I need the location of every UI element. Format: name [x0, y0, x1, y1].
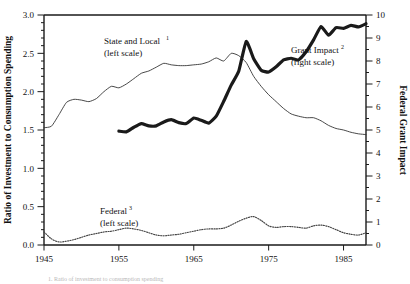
x-tick-label: 1985 — [335, 254, 354, 264]
right-tick-label: 0 — [376, 240, 381, 250]
annotation-federal-line2: (left scale) — [100, 218, 138, 228]
right-tick-label: 9 — [376, 33, 381, 43]
right-axis-title: Federal Grant Impact — [398, 85, 408, 176]
left-axis-ticks: 3.0 2.5 2.0 1.5 1.0 0.5 0.0 — [23, 10, 44, 250]
right-axis-ticks: 012345678910 — [366, 10, 386, 250]
x-tick-label: 1975 — [260, 254, 279, 264]
annotation-grant-impact-sup: 2 — [341, 44, 344, 50]
annotation-grant-impact-line2: (right scale) — [291, 57, 334, 67]
right-tick-label: 3 — [376, 171, 381, 181]
left-tick-label: 1.0 — [23, 164, 35, 174]
right-tick-label: 6 — [376, 102, 381, 112]
annotation-state-and-local-line1: State and Local — [104, 36, 160, 46]
x-tick-label: 1965 — [185, 254, 204, 264]
right-tick-label: 2 — [376, 194, 381, 204]
chart-canvas: 3.0 2.5 2.0 1.5 1.0 0.5 0.0 012345678910… — [0, 0, 410, 284]
series-line-federal — [44, 217, 366, 242]
right-tick-label: 5 — [376, 125, 381, 135]
left-axis-title: Ratio of Investment to Consumption Spend… — [3, 36, 13, 224]
annotation-grant-impact-line1: Grant Impact — [291, 45, 339, 55]
left-tick-label: 3.0 — [23, 10, 35, 20]
annotation-state-and-local-sup: 1 — [166, 35, 169, 41]
right-tick-label: 7 — [376, 79, 381, 89]
footnote-text: 1. Ratio of investment to consumption sp… — [48, 276, 163, 282]
annotation-federal-line1: Federal — [100, 206, 127, 216]
left-tick-label: 0.0 — [23, 240, 35, 250]
right-tick-label: 10 — [376, 10, 386, 20]
left-tick-label: 2.0 — [23, 87, 35, 97]
x-tick-label: 1955 — [110, 254, 129, 264]
x-tick-label: 1945 — [35, 254, 54, 264]
x-axis-ticks: 19451955196519751985 — [35, 245, 353, 264]
left-tick-label: 2.5 — [23, 49, 35, 59]
annotation-grant-impact: Grant Impact 2 (right scale) — [291, 44, 344, 67]
chart-figure: 3.0 2.5 2.0 1.5 1.0 0.5 0.0 012345678910… — [0, 0, 410, 284]
left-tick-label: 1.5 — [23, 125, 35, 135]
annotation-state-and-local-line2: (left scale) — [104, 48, 142, 58]
left-tick-label: 0.5 — [23, 202, 35, 212]
annotation-federal-sup: 3 — [129, 205, 132, 211]
right-tick-label: 4 — [376, 148, 381, 158]
right-tick-label: 1 — [376, 217, 381, 227]
annotation-state-and-local: State and Local 1 (left scale) — [104, 35, 169, 58]
annotation-federal: Federal 3 (left scale) — [100, 205, 138, 228]
right-tick-label: 8 — [376, 56, 381, 66]
